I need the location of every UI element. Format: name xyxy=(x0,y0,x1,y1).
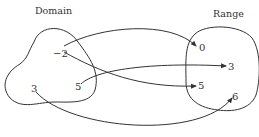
range-element-5: 5 xyxy=(198,80,204,91)
arrow-neg2-to-0 xyxy=(64,29,196,46)
range-title: Range xyxy=(213,8,244,19)
domain-element-3: 3 xyxy=(31,83,37,94)
domain-title: Domain xyxy=(35,5,72,16)
diagram-svg: Domain Range −2 5 3 0 3 5 6 xyxy=(0,0,259,137)
range-set-outline xyxy=(186,27,259,111)
range-element-6: 6 xyxy=(232,91,238,102)
arrow-3-to-6 xyxy=(36,92,232,125)
domain-set-outline xyxy=(5,29,96,105)
range-element-3: 3 xyxy=(228,61,234,72)
mapping-diagram: Domain Range −2 5 3 0 3 5 6 xyxy=(0,0,259,137)
domain-element-5: 5 xyxy=(75,81,81,92)
domain-element-neg2: −2 xyxy=(53,48,68,59)
range-element-0: 0 xyxy=(199,42,205,53)
